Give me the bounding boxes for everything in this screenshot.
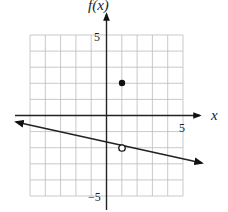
x-axis-label: x [210, 107, 218, 123]
y-axis-label: f(x) [88, 0, 109, 14]
closed-point [119, 80, 125, 86]
y-tick-neg5: −5 [88, 190, 101, 204]
x-tick-5: 5 [179, 121, 185, 135]
function-graph: f(x) x 5 5 −5 [0, 0, 228, 212]
y-tick-5: 5 [94, 30, 100, 44]
function-line [16, 122, 202, 163]
open-point [119, 145, 125, 151]
